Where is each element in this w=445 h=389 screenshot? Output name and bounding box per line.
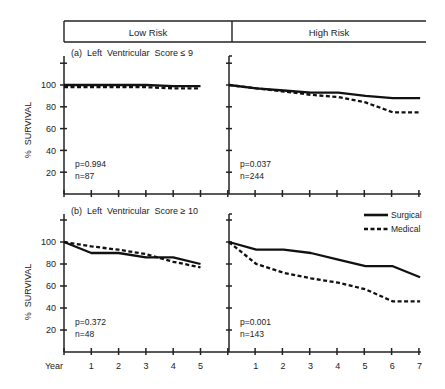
surgical-series-line [229,242,420,277]
tick-labels: 1008060402010080604020Year123451234567 [41,80,422,371]
y-tick-label: 100 [41,237,56,247]
y-axis-label-bottom: % SURVIVAL [23,264,33,321]
survival-figure: Low Risk High Risk (a) Left Ventricular … [0,0,445,389]
row-title-b: (b) Left Ventricular Score ≥ 10 [71,206,198,216]
y-tick-label: 20 [46,168,56,178]
x-tick-label: 4 [171,361,176,371]
legend-medical-label: Medical [391,224,420,234]
x-tick-label: 2 [116,361,121,371]
surgical-series-line [64,85,201,86]
data-series [64,85,420,301]
sample-size: n=244 [240,171,264,181]
y-axis-label-top: % SURVIVAL [23,102,33,159]
sample-size: n=143 [240,329,264,339]
x-tick-label: 3 [308,361,313,371]
y-tick-label: 80 [46,259,56,269]
x-tick-label: 4 [335,361,340,371]
y-tick-label: 20 [46,325,56,335]
x-tick-label: 5 [198,361,203,371]
x-tick-label: 2 [281,361,286,371]
surgical-series-line [229,85,420,98]
y-tick-label: 60 [46,124,56,134]
column-header-low-risk: Low Risk [129,27,168,38]
legend-surgical-label: Surgical [391,210,422,220]
legend: Surgical Medical [364,210,422,234]
x-tick-label: 1 [89,361,94,371]
p-value: p=0.001 [240,317,271,327]
x-tick-label: 5 [362,361,367,371]
column-header [64,21,426,42]
p-value: p=0.994 [75,159,106,169]
x-tick-label: 7 [417,361,422,371]
sample-size: n=48 [75,329,94,339]
y-tick-label: 40 [46,303,56,313]
column-header-high-risk: High Risk [309,27,350,38]
p-value: p=0.372 [75,317,106,327]
sample-size: n=87 [75,171,94,181]
p-value: p=0.037 [240,159,271,169]
medical-series-line [229,242,420,301]
y-tick-label: 60 [46,281,56,291]
x-axis-label: Year [45,361,63,371]
row-title-a: (a) Left Ventricular Score ≤ 9 [71,48,193,58]
x-tick-label: 3 [143,361,148,371]
y-tick-label: 80 [46,102,56,112]
y-tick-label: 100 [41,80,56,90]
medical-series-line [64,87,201,88]
y-tick-label: 40 [46,146,56,156]
x-tick-label: 6 [390,361,395,371]
x-tick-label: 1 [253,361,258,371]
